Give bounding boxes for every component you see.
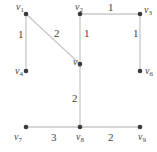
node-v8 [78,125,83,130]
node-v1 [24,12,29,17]
label-v1: v1 [16,1,24,14]
weight-v3-v6: 1 [133,27,139,39]
label-v4: v4 [15,65,23,78]
nodes [24,12,143,130]
weight-v2-v3: 1 [108,1,114,13]
label-v3: v3 [144,4,152,17]
weight-v5-v8: 2 [72,92,78,104]
edges [26,14,140,127]
label-v9: v9 [138,131,146,144]
weight-v8-v9: 2 [108,131,114,143]
node-v7 [24,125,29,130]
weight-v1-v5: 2 [54,27,60,39]
edge-weights: 1 2 1 1 1 2 3 2 [18,1,139,143]
label-v7: v7 [14,131,22,144]
node-v4 [24,69,29,74]
node-v6 [138,69,143,74]
node-v9 [138,125,143,130]
weight-v2-v5: 1 [84,27,90,39]
weight-v7-v8: 3 [51,131,57,143]
graph-diagram: 1 2 1 1 1 2 3 2 v1 v2 v3 v4 v5 v6 v7 v8 … [0,0,157,152]
weight-v1-v4: 1 [18,28,24,40]
label-v8: v8 [76,131,84,144]
label-v2: v2 [75,1,83,14]
node-v3 [138,12,143,17]
label-v6: v6 [145,65,153,78]
edge-v1-v5 [26,14,80,64]
